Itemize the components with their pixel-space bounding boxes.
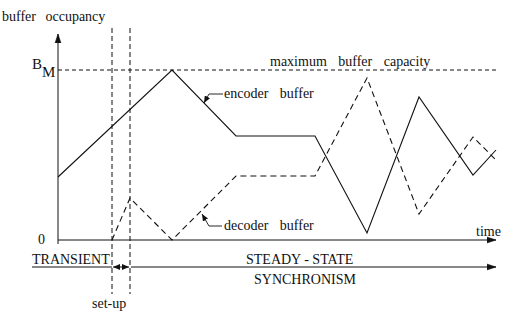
encoder-label-leader (204, 94, 223, 103)
steady-state-label: STEADY - STATE (246, 252, 353, 267)
x-axis-label: time (476, 224, 501, 239)
transient-label: TRANSIENT (32, 252, 110, 267)
decoder-buffer-line (112, 78, 496, 240)
max-capacity-label: maximum buffer capacity (270, 54, 430, 69)
synchronism-label: SYNCHRONISM (254, 272, 356, 287)
zero-label: 0 (38, 232, 45, 247)
buffer-occupancy-diagram: buffer occupancy time BM 0 maximum buffe… (0, 0, 513, 316)
y-axis-label: buffer occupancy (2, 9, 105, 24)
decoder-label-leader (202, 214, 222, 226)
decoder-buffer-label: decoder buffer (224, 218, 314, 233)
bm-label: BM (32, 56, 55, 80)
setup-label: set-up (92, 296, 126, 311)
encoder-buffer-label: encoder buffer (224, 86, 314, 101)
